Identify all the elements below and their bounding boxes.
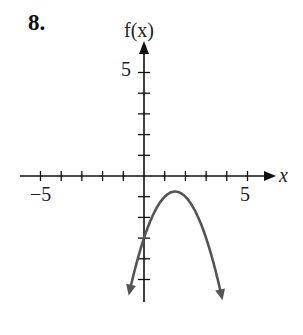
axes — [20, 41, 276, 302]
x-tick-label-5: 5 — [240, 183, 250, 205]
x-tick-label-neg5: −5 — [30, 183, 51, 205]
curve-right-arrow-icon — [215, 288, 225, 300]
y-axis-label: f(x) — [124, 19, 154, 42]
x-axis-arrow-icon — [264, 171, 276, 181]
curve-left-arrow-icon — [126, 284, 136, 296]
y-axis-arrow-icon — [139, 41, 149, 54]
function-curve — [126, 192, 225, 301]
parabola-graph: x f(x) −5 5 5 — [0, 0, 303, 335]
x-axis-label: x — [278, 164, 288, 186]
y-tick-label-5: 5 — [121, 58, 131, 80]
